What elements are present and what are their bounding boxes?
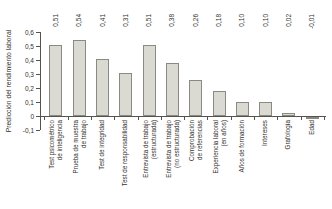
x-tick [184, 117, 185, 120]
x-tick [44, 117, 45, 120]
bar-chart: Predicción del rendimiento laboral 0,60,… [0, 0, 332, 209]
y-tick [36, 60, 40, 61]
bar-value-label: 0,02 [284, 14, 294, 60]
y-tick [36, 88, 40, 89]
bar-value-label: 0,26 [191, 14, 201, 60]
category-label: Test de responsabilidad [121, 120, 130, 204]
x-tick [231, 117, 232, 120]
y-tick-label: 0,4 [12, 56, 34, 65]
y-tick [36, 102, 40, 103]
y-tick-label: 0,6 [12, 28, 34, 37]
category-label: Comprobaciónde referencias [188, 120, 203, 204]
bar [259, 102, 272, 116]
y-tick-label: 0 [12, 112, 34, 121]
category-label: Test de integridad [98, 120, 107, 204]
category-label: Años de formación [238, 120, 247, 204]
category-label: Test psicométricode inteligencia [48, 120, 63, 204]
x-axis-line [40, 116, 326, 117]
bar [119, 73, 132, 116]
category-label: Edad [308, 120, 317, 204]
bar [189, 80, 202, 116]
category-label: Experiencia laboral(en años) [212, 120, 227, 204]
bar-value-label: -0,01 [307, 14, 317, 60]
bar [306, 117, 319, 119]
x-tick [161, 117, 162, 120]
y-tick [36, 32, 40, 33]
y-tick [36, 116, 40, 117]
category-label: Prueba de muestrade trabajo [72, 120, 87, 204]
x-tick [207, 117, 208, 120]
bar-value-label: 0,41 [98, 14, 108, 60]
bar [282, 113, 295, 116]
x-tick [68, 117, 69, 120]
x-tick [301, 117, 302, 120]
bar [236, 102, 249, 116]
y-tick [36, 74, 40, 75]
x-tick [91, 117, 92, 120]
bar-value-label: 0,31 [121, 14, 131, 60]
bar-value-label: 0,18 [214, 14, 224, 60]
category-label: Grafología [284, 120, 293, 204]
category-label: Intereses [261, 120, 270, 204]
bar [96, 59, 109, 116]
y-tick-label: 0,1 [12, 98, 34, 107]
bar-value-label: 0,10 [261, 14, 271, 60]
x-tick [324, 117, 325, 120]
y-tick-label: -0,1 [12, 126, 34, 135]
x-tick [114, 117, 115, 120]
x-tick [277, 117, 278, 120]
y-tick [36, 130, 40, 131]
bar-value-label: 0,54 [74, 14, 84, 60]
bar-value-label: 0,38 [167, 14, 177, 60]
bar-value-label: 0,51 [144, 14, 154, 60]
x-tick [138, 117, 139, 120]
category-label: Entrevista de trabajo(estructurada) [142, 120, 157, 204]
bar-value-label: 0,51 [51, 14, 61, 60]
y-tick-label: 0,2 [12, 84, 34, 93]
bar [166, 63, 179, 116]
category-label: Entrevista de trabajo(no estructurada) [165, 120, 180, 204]
x-tick [254, 117, 255, 120]
y-tick-label: 0,5 [12, 42, 34, 51]
y-tick [36, 46, 40, 47]
bar-value-label: 0,10 [237, 14, 247, 60]
y-tick-label: 0,3 [12, 70, 34, 79]
bar [213, 91, 226, 116]
